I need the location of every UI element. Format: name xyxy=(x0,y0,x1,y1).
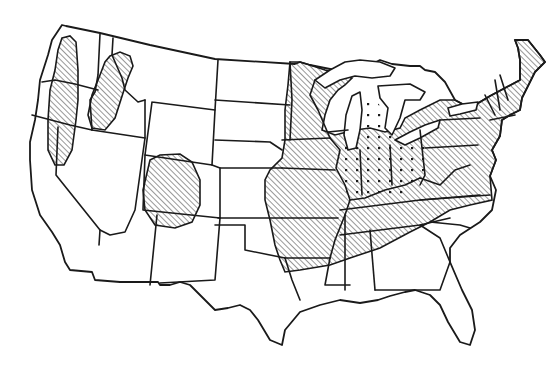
region-colorado-oval xyxy=(143,154,200,228)
us-map xyxy=(0,0,550,373)
us-map-svg xyxy=(0,0,550,373)
